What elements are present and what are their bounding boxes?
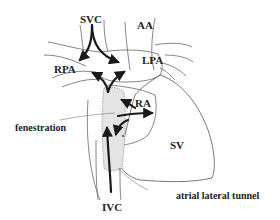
label-rpa: RPA	[54, 64, 76, 75]
label-svc: SVC	[80, 14, 102, 25]
single-ventricle	[118, 75, 214, 182]
label-lpa: LPA	[142, 55, 163, 66]
label-fenestration: fenestration	[15, 123, 66, 133]
fontan-diagram	[0, 0, 280, 220]
label-ivc: IVC	[102, 202, 122, 213]
label-aa: AA	[137, 20, 153, 31]
fenestration-dot	[122, 135, 124, 137]
label-atrial-lateral-tunnel: atrial lateral tunnel	[176, 191, 259, 201]
label-sv: SV	[170, 140, 184, 151]
label-ra: RA	[135, 98, 151, 109]
tunnel-pointer	[118, 168, 148, 190]
